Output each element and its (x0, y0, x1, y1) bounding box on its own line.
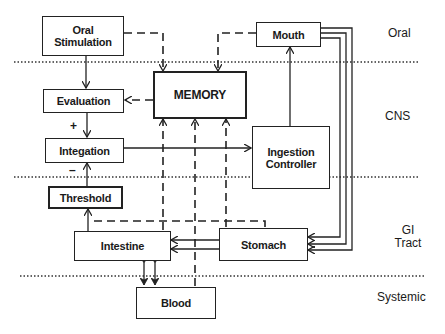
memory-node: MEMORY (153, 71, 247, 119)
integation-node: Integation (45, 138, 124, 163)
stomach-node: Stomach (219, 228, 308, 261)
ingestion-controller-node: Ingestion Controller (252, 126, 330, 189)
region-label-oral: Oral (388, 27, 411, 40)
plus-sign: + (70, 119, 77, 133)
oral-stimulation-node: Oral Stimulation (42, 16, 124, 56)
region-label-systemic: Systemic (377, 291, 426, 304)
mouth-node: Mouth (256, 22, 321, 47)
blood-node: Blood (136, 287, 216, 319)
region-label-gi-tract: GI Tract (393, 224, 423, 250)
evaluation-node: Evaluation (43, 89, 124, 113)
intestine-node: Intestine (74, 231, 171, 261)
threshold-node: Threshold (48, 186, 123, 209)
minus-sign: – (69, 163, 76, 177)
region-label-cns: CNS (385, 110, 410, 123)
